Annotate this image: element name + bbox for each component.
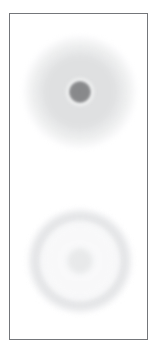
top-blob-core xyxy=(69,81,92,104)
bottom-blob-core xyxy=(65,246,95,276)
figure-frame xyxy=(9,13,148,340)
figure-panel: Concentric intensity blobs panel xyxy=(0,0,157,347)
figure-title: Concentric intensity blobs panel xyxy=(0,0,1,1)
